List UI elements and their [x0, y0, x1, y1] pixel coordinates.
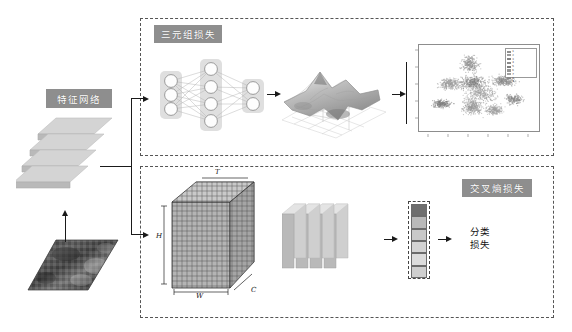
branch-to-triplet-head	[143, 96, 149, 102]
feature-network-label: 特征网络	[46, 89, 112, 108]
legend-row: 3	[507, 58, 535, 61]
legend-row: 1	[507, 50, 535, 53]
class-vector-cell	[411, 216, 427, 228]
conv-feature-plates	[282, 200, 378, 276]
classification-loss-line1: 分类	[470, 226, 490, 237]
arrow-plates-to-vector-head	[392, 236, 398, 242]
cube-dim-h-label: H	[156, 232, 162, 240]
legend-swatch	[507, 51, 511, 53]
legend-label: 9	[512, 80, 514, 83]
class-vector-cell	[411, 229, 427, 241]
legend-row: 5	[507, 65, 535, 68]
cube-dim-w-label: W	[196, 292, 203, 300]
arrow-vector-to-loss-head	[446, 236, 452, 242]
diagram-canvas: 特征网络 三元组损失 交叉熵损失 分类 损失	[0, 0, 572, 332]
legend-swatch	[507, 62, 511, 64]
cube-dim-c-label: C	[251, 286, 256, 294]
splitter-stub	[100, 166, 132, 167]
legend-label: 8	[512, 77, 514, 80]
cross-entropy-loss-label: 交叉熵损失	[462, 179, 532, 197]
legend-label: 5	[512, 65, 514, 68]
loss-surface-svg	[276, 50, 390, 142]
feature-cube	[152, 176, 272, 296]
slab-stack-svg	[16, 112, 128, 204]
legend-swatch	[507, 66, 511, 68]
legend-label: 2	[512, 54, 514, 57]
triplet-loss-label: 三元组损失	[154, 25, 222, 43]
feature-cube-svg	[152, 176, 272, 296]
legend-swatch	[507, 73, 511, 75]
classification-vector	[408, 201, 430, 279]
class-vector-cell	[411, 253, 427, 265]
legend-row: 4	[507, 61, 535, 64]
arrow-input-to-feature-line	[65, 216, 66, 242]
branch-to-crossentropy-head	[143, 232, 149, 238]
legend-label: 6	[512, 69, 514, 72]
legend-row: 6	[507, 69, 535, 72]
legend-row: 7	[507, 73, 535, 76]
legend-label: 4	[512, 61, 514, 64]
loss-landscape-surface	[276, 50, 390, 142]
legend-swatch	[507, 58, 511, 60]
plot-separator-tick	[406, 62, 407, 124]
splitter-trunk	[131, 98, 132, 235]
legend-swatch	[507, 77, 511, 79]
legend-label: 7	[512, 73, 514, 76]
legend-label: 3	[512, 58, 514, 61]
conv-plates-svg	[282, 200, 378, 276]
arrow-input-to-feature-head	[62, 210, 68, 216]
legend-label: 1	[512, 50, 514, 53]
fc-network-svg	[158, 57, 266, 133]
fully-connected-network	[158, 57, 266, 133]
legend-swatch	[507, 69, 511, 71]
legend-row: 9	[507, 80, 535, 83]
feature-network-stack	[16, 112, 128, 204]
input-patch-svg	[26, 236, 122, 294]
class-vector-cell	[411, 204, 427, 216]
legend-row: 8	[507, 76, 535, 79]
classification-loss-line2: 损失	[470, 239, 490, 250]
legend-swatch	[507, 81, 511, 83]
legend-swatch	[507, 54, 511, 56]
class-vector-cell	[411, 266, 427, 278]
class-vector-cell	[411, 241, 427, 253]
tsne-legend: 123456789	[505, 48, 537, 78]
hyperspectral-input-patch	[26, 236, 122, 294]
cube-dim-t-label: T	[215, 168, 220, 176]
legend-row: 2	[507, 54, 535, 57]
